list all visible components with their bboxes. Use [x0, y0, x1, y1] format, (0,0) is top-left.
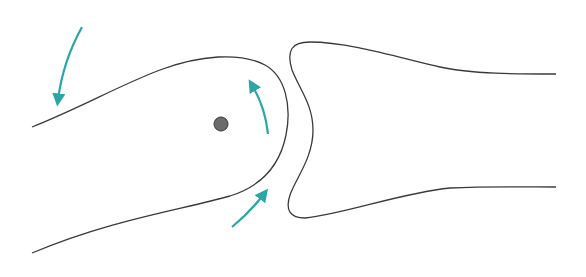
right-bone-outline [288, 42, 556, 218]
arrow-top-left-icon [58, 27, 82, 100]
pivot-dot [214, 117, 228, 131]
left-bone-outline [32, 57, 288, 253]
joint-motion-diagram [0, 0, 586, 277]
arrow-bottom-icon [232, 194, 264, 227]
diagram-canvas [0, 0, 586, 277]
arrow-inner-head-icon [252, 85, 268, 134]
